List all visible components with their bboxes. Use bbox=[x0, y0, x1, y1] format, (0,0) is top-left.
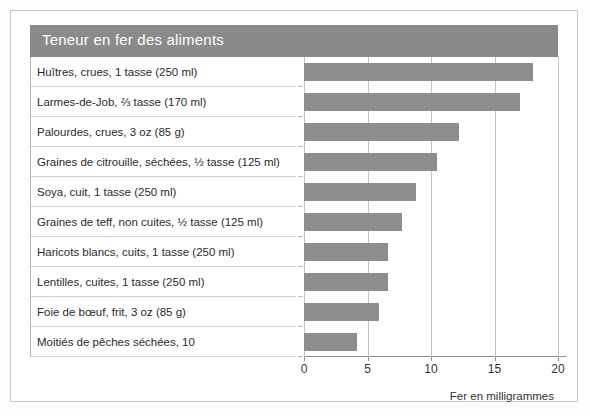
bar bbox=[304, 273, 388, 291]
bar bbox=[304, 93, 520, 111]
x-tick-5 bbox=[368, 357, 369, 361]
bar bbox=[304, 153, 437, 171]
x-tick-label-15: 15 bbox=[488, 362, 501, 376]
category-label: Graines de citrouille, séchées, ½ tasse … bbox=[37, 147, 280, 177]
bar bbox=[304, 243, 388, 261]
x-tick-label-0: 0 bbox=[301, 362, 308, 376]
bar bbox=[304, 63, 533, 81]
page-title: Teneur en fer des aliments bbox=[42, 31, 224, 48]
row-separator-stub bbox=[298, 206, 303, 207]
category-label: Palourdes, crues, 3 oz (85 g) bbox=[37, 117, 185, 147]
x-tick-15 bbox=[495, 357, 496, 361]
x-axis-title: Fer en milligrammes bbox=[450, 390, 554, 402]
bar bbox=[304, 213, 402, 231]
chart-title-bar: Teneur en fer des aliments bbox=[30, 25, 558, 57]
x-tick-label-5: 5 bbox=[364, 362, 371, 376]
category-label: Foie de bœuf, frit, 3 oz (85 g) bbox=[37, 297, 186, 327]
x-tick-10 bbox=[431, 357, 432, 361]
plot-area: 05101520 bbox=[304, 57, 558, 357]
row-separator-stub bbox=[298, 146, 303, 147]
x-tick-label-10: 10 bbox=[424, 362, 437, 376]
row-separator-stub bbox=[298, 176, 303, 177]
category-label-column: Huîtres, crues, 1 tasse (250 ml)Larmes-d… bbox=[30, 57, 300, 357]
row-separator-stub bbox=[298, 266, 303, 267]
row-separator-stub bbox=[298, 116, 303, 117]
x-tick-label-20: 20 bbox=[551, 362, 564, 376]
x-axis-line bbox=[304, 356, 566, 357]
row-separator-stub bbox=[298, 326, 303, 327]
category-label: Soya, cuit, 1 tasse (250 ml) bbox=[37, 177, 176, 207]
x-tick-20 bbox=[558, 357, 559, 361]
row-separator-stub bbox=[298, 236, 303, 237]
category-label: Graines de teff, non cuites, ½ tasse (12… bbox=[37, 207, 263, 237]
row-separator-stub bbox=[298, 86, 303, 87]
category-label: Lentilles, cuites, 1 tasse (250 ml) bbox=[37, 267, 204, 297]
bar bbox=[304, 183, 416, 201]
bar bbox=[304, 333, 357, 351]
row-separator-stub bbox=[298, 356, 303, 357]
chart-page: Teneur en fer des aliments Huîtres, crue… bbox=[0, 0, 590, 415]
category-label: Haricots blancs, cuits, 1 tasse (250 ml) bbox=[37, 237, 235, 267]
category-label: Larmes-de-Job, ⅔ tasse (170 ml) bbox=[37, 87, 206, 117]
gridline-20 bbox=[558, 57, 559, 357]
bar bbox=[304, 303, 379, 321]
category-label: Huîtres, crues, 1 tasse (250 ml) bbox=[37, 57, 197, 87]
row-separator-stub bbox=[298, 296, 303, 297]
bar bbox=[304, 123, 459, 141]
category-label: Moitiés de pêches séchées, 10 bbox=[37, 327, 195, 357]
row-separator bbox=[31, 356, 296, 357]
chart-body: Huîtres, crues, 1 tasse (250 ml)Larmes-d… bbox=[30, 57, 558, 357]
x-tick-0 bbox=[304, 357, 305, 361]
